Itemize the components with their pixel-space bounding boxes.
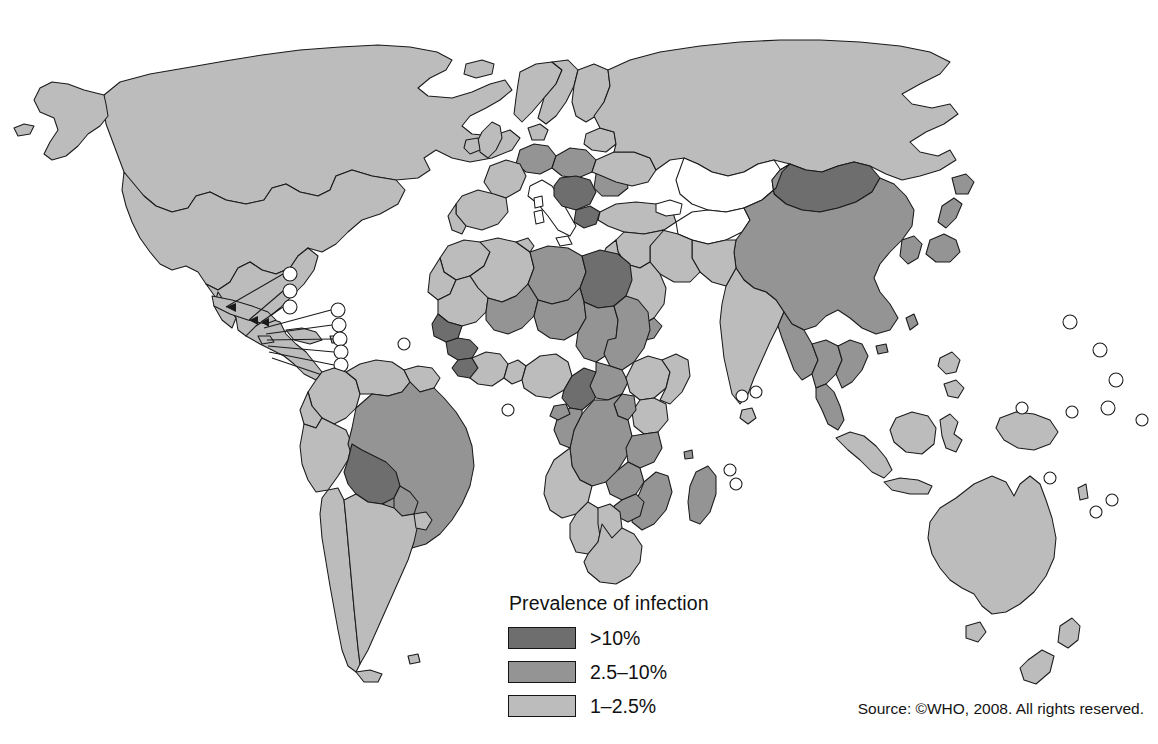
island-marker <box>1063 315 1077 329</box>
island-marker <box>333 332 347 346</box>
region-sulawesi <box>940 414 962 452</box>
region-malay-peninsula <box>816 384 844 430</box>
region-madagascar <box>688 466 716 524</box>
island-marker <box>1044 472 1056 484</box>
island-marker <box>1066 406 1078 418</box>
region-denmark <box>528 124 548 140</box>
region-alaska <box>34 82 108 160</box>
island-marker <box>750 386 762 398</box>
region-japan <box>938 198 962 228</box>
region-japan-hokkaido <box>952 174 974 194</box>
region-tierra-del-fuego <box>356 670 382 682</box>
legend-item-low: 1–2.5% <box>508 691 808 721</box>
legend-label-medium: 2.5–10% <box>590 661 667 684</box>
region-taiwan <box>906 314 918 330</box>
region-aleutians <box>14 124 34 136</box>
island-marker <box>398 338 410 350</box>
island-marker <box>1106 494 1118 506</box>
source-attribution: Source: ©WHO, 2008. All rights reserved. <box>858 700 1144 718</box>
island-marker <box>331 303 345 317</box>
legend-item-medium: 2.5–10% <box>508 657 808 687</box>
region-new-zealand-south <box>1020 650 1054 684</box>
island-marker <box>283 300 297 314</box>
legend-swatch-medium <box>508 661 576 683</box>
legend-swatch-high <box>508 627 576 649</box>
region-canada <box>104 45 520 212</box>
island-marker <box>1016 402 1028 414</box>
island-marker <box>730 478 742 490</box>
island-marker <box>1109 373 1123 387</box>
region-thailand <box>812 340 842 388</box>
legend-swatch-low <box>508 695 576 717</box>
figure-canvas: Prevalence of infection >10% 2.5–10% 1–2… <box>0 0 1158 744</box>
region-fiji <box>1078 484 1088 500</box>
legend-label-high: >10% <box>590 627 640 650</box>
region-philippines-1 <box>938 352 960 374</box>
island-marker <box>334 345 348 359</box>
region-comoros <box>684 450 693 459</box>
region-greece <box>574 206 600 228</box>
region-japan-south <box>926 234 960 262</box>
region-iceland <box>464 60 494 78</box>
legend-item-high: >10% <box>508 623 808 653</box>
region-france <box>484 160 526 198</box>
region-pakistan <box>692 240 736 286</box>
region-guinea <box>446 338 478 360</box>
island-marker <box>1101 401 1115 415</box>
island-marker <box>1136 414 1148 426</box>
region-korea <box>900 236 922 264</box>
region-borneo <box>890 412 936 454</box>
region-java <box>884 478 932 494</box>
world-map-figure: Prevalence of infection >10% 2.5–10% 1–2… <box>0 0 1158 744</box>
region-sumatra <box>836 432 892 478</box>
region-cambodia-vietnam <box>836 340 868 388</box>
region-tanzania <box>626 432 662 468</box>
island-marker <box>332 318 346 332</box>
region-philippines-2 <box>944 380 964 398</box>
island-marker <box>283 267 297 281</box>
region-papua <box>996 412 1058 450</box>
region-falklands <box>408 654 420 664</box>
island-marker <box>502 404 514 416</box>
region-peru <box>300 418 352 492</box>
region-kenya <box>632 398 668 434</box>
legend-title: Prevalence of infection <box>509 592 808 615</box>
region-tasmania <box>966 622 986 642</box>
region-new-zealand-north <box>1058 618 1080 648</box>
region-south-america <box>300 360 474 682</box>
region-southeast-asia <box>778 312 1058 494</box>
region-caucasus <box>656 200 682 216</box>
island-marker <box>283 284 297 298</box>
island-marker <box>1093 343 1107 357</box>
region-sicily <box>556 236 572 246</box>
map-legend: Prevalence of infection >10% 2.5–10% 1–2… <box>508 592 808 725</box>
region-australia <box>928 476 1056 614</box>
region-srilanka <box>740 408 756 424</box>
island-marker <box>736 390 748 402</box>
legend-label-low: 1–2.5% <box>590 695 656 718</box>
region-corsica <box>534 196 543 208</box>
island-marker <box>1090 506 1102 518</box>
region-poland <box>552 148 596 178</box>
region-hainan <box>876 344 888 354</box>
region-sardinia <box>534 210 544 224</box>
island-marker <box>724 464 736 476</box>
